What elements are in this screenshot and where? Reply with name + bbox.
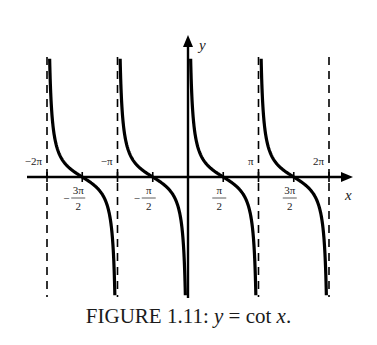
tick-label-denominator: 2: [146, 200, 152, 212]
cot-plot: x y −2π−ππ2π−3π2−π2π23π2: [0, 0, 377, 345]
tick-label-denominator: 2: [217, 200, 223, 212]
tick-label-minus: −: [134, 192, 140, 204]
caption-equals: =: [223, 304, 245, 328]
caption-y: y: [214, 304, 223, 328]
figure-caption: FIGURE 1.11: y = cot x.: [0, 304, 377, 329]
x-axis-label: x: [344, 187, 352, 203]
tick-label-above: π: [248, 155, 254, 167]
caption-x: x: [277, 304, 286, 328]
caption-end: .: [286, 304, 291, 328]
y-axis-arrow-icon: [183, 35, 193, 47]
y-axis-label: y: [197, 37, 206, 53]
tick-label-denominator: 2: [75, 200, 81, 212]
tick-label-numerator: 3π: [284, 184, 296, 196]
tick-label-above: −π: [101, 155, 113, 167]
tick-label-minus: −: [63, 192, 69, 204]
x-axis-arrow-icon: [341, 172, 353, 182]
tick-label-above: 2π: [313, 155, 325, 167]
tick-label-numerator: π: [216, 184, 222, 196]
tick-label-numerator: 3π: [73, 184, 85, 196]
tick-labels: −2π−ππ2π−3π2−π2π23π2: [25, 155, 325, 212]
tick-label-denominator: 2: [287, 200, 293, 212]
tick-label-numerator: π: [146, 184, 152, 196]
caption-cot: cot: [246, 304, 272, 328]
tick-label-above: −2π: [25, 155, 43, 167]
caption-prefix: FIGURE 1.11:: [86, 304, 214, 328]
